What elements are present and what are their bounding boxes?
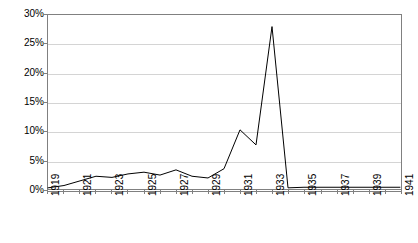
x-tick-mark <box>160 190 161 194</box>
x-tick-mark <box>127 190 128 194</box>
x-tick-mark <box>176 190 177 194</box>
x-tick-label: 1931 <box>244 174 254 196</box>
y-tick-label: 5% <box>4 156 44 166</box>
x-tick-label: 1941 <box>405 174 415 196</box>
x-tick-label: 1921 <box>83 174 93 196</box>
y-tick-mark <box>43 43 47 44</box>
x-tick-mark <box>224 190 225 194</box>
x-tick-label: 1937 <box>341 174 351 196</box>
x-tick-mark <box>321 190 322 194</box>
x-tick-mark <box>47 190 48 194</box>
x-tick-mark <box>304 190 305 194</box>
x-tick-label: 1927 <box>180 174 190 196</box>
x-tick-label: 1933 <box>276 174 286 196</box>
x-tick-mark <box>288 190 289 194</box>
series-polyline <box>48 27 400 188</box>
x-tick-mark <box>385 190 386 194</box>
y-tick-label: 10% <box>4 126 44 136</box>
y-tick-label: 15% <box>4 97 44 107</box>
y-tick-mark <box>43 161 47 162</box>
y-tick-mark <box>43 102 47 103</box>
y-tick-label: 25% <box>4 38 44 48</box>
x-tick-mark <box>353 190 354 194</box>
y-tick-mark <box>43 14 47 15</box>
y-tick-label: 0% <box>4 185 44 195</box>
y-tick-mark <box>43 73 47 74</box>
x-tick-mark <box>240 190 241 194</box>
line-chart: 0%5%10%15%20%25%30%191919211923192519271… <box>0 0 418 243</box>
x-tick-mark <box>63 190 64 194</box>
x-tick-mark <box>79 190 80 194</box>
x-tick-mark <box>272 190 273 194</box>
x-tick-mark <box>369 190 370 194</box>
x-tick-label: 1935 <box>308 174 318 196</box>
x-tick-label: 1939 <box>373 174 383 196</box>
x-tick-label: 1919 <box>51 174 61 196</box>
y-tick-label: 20% <box>4 68 44 78</box>
x-tick-label: 1923 <box>115 174 125 196</box>
x-tick-mark <box>95 190 96 194</box>
x-tick-mark <box>192 190 193 194</box>
y-tick-mark <box>43 131 47 132</box>
series-line <box>48 15 401 189</box>
x-tick-mark <box>144 190 145 194</box>
plot-area <box>47 14 402 190</box>
x-tick-mark <box>111 190 112 194</box>
x-tick-mark <box>208 190 209 194</box>
x-tick-mark <box>401 190 402 194</box>
x-tick-mark <box>337 190 338 194</box>
x-tick-label: 1925 <box>148 174 158 196</box>
x-tick-label: 1929 <box>212 174 222 196</box>
x-tick-mark <box>256 190 257 194</box>
y-tick-label: 30% <box>4 9 44 19</box>
